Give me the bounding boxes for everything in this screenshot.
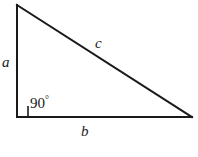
right-triangle-diagram: a c b 90°: [0, 0, 198, 157]
side-b-label: b: [81, 124, 89, 139]
side-a-label: a: [2, 55, 10, 70]
degree-symbol-icon: °: [45, 94, 49, 105]
right-angle-value: 90: [30, 95, 45, 111]
right-angle-label: 90°: [30, 95, 49, 111]
side-c-label: c: [95, 36, 102, 51]
right-angle-marker: [17, 106, 28, 117]
triangle-svg: [0, 0, 198, 157]
